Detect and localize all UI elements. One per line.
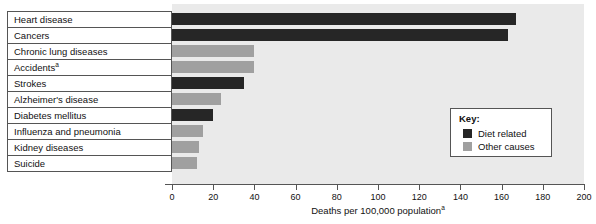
x-axis-tick-label: 160 bbox=[494, 192, 509, 202]
bar bbox=[172, 109, 213, 121]
category-label-row: Suicide bbox=[8, 156, 171, 172]
bar-row bbox=[172, 155, 584, 171]
category-label-row: Accidentsa bbox=[8, 60, 171, 76]
legend-entry: Other causes bbox=[463, 140, 551, 153]
category-label-text: Heart disease bbox=[14, 14, 73, 25]
category-label-row: Influenza and pneumonia bbox=[8, 124, 171, 140]
category-label-row: Kidney diseases bbox=[8, 140, 171, 156]
category-label-row: Cancers bbox=[8, 28, 171, 44]
category-label-text: Chronic lung diseases bbox=[14, 46, 107, 57]
legend-color-swatch bbox=[463, 129, 472, 138]
legend-entries: Diet relatedOther causes bbox=[459, 127, 551, 153]
x-axis-tick-label: 140 bbox=[453, 192, 468, 202]
category-label-text: Cancers bbox=[14, 30, 49, 41]
bar bbox=[172, 45, 254, 57]
x-axis-title-text: Deaths per 100,000 population bbox=[311, 205, 441, 216]
x-axis-tick-mark bbox=[378, 184, 379, 190]
x-axis-tick-mark bbox=[543, 184, 544, 190]
x-axis-tick-label: 200 bbox=[576, 192, 591, 202]
bar-row bbox=[172, 43, 584, 59]
x-axis-tick-mark bbox=[254, 184, 255, 190]
x-axis-tick-mark bbox=[213, 184, 214, 190]
category-label-text: Kidney diseases bbox=[14, 142, 83, 153]
bar bbox=[172, 13, 516, 25]
x-axis-tick-label: 60 bbox=[291, 192, 301, 202]
x-axis-tick-label: 120 bbox=[412, 192, 427, 202]
bar bbox=[172, 93, 221, 105]
category-label-text: Strokes bbox=[14, 78, 46, 89]
x-axis-tick-label: 100 bbox=[370, 192, 385, 202]
x-axis-title-footnote-marker: a bbox=[441, 204, 445, 211]
category-label-row: Strokes bbox=[8, 76, 171, 92]
legend-color-swatch bbox=[463, 142, 472, 151]
bar-row bbox=[172, 91, 584, 107]
bar bbox=[172, 125, 203, 137]
x-axis-tick-label: 80 bbox=[332, 192, 342, 202]
bar-row bbox=[172, 59, 584, 75]
bar bbox=[172, 157, 197, 169]
x-axis-tick-label: 180 bbox=[535, 192, 550, 202]
x-axis-tick-label: 40 bbox=[249, 192, 259, 202]
x-axis-tick-mark bbox=[419, 184, 420, 190]
category-label-row: Alzheimer's disease bbox=[8, 92, 171, 108]
x-axis-tick-mark bbox=[296, 184, 297, 190]
category-label-text: Diabetes mellitus bbox=[14, 110, 86, 121]
x-axis-tick-mark bbox=[584, 184, 585, 190]
category-label-text: Influenza and pneumonia bbox=[14, 126, 121, 137]
category-label-footnote-marker: a bbox=[55, 61, 59, 68]
bar bbox=[172, 29, 508, 41]
x-axis-ticks: 020406080100120140160180200 bbox=[172, 184, 584, 204]
legend-entry: Diet related bbox=[463, 127, 551, 140]
bar bbox=[172, 61, 254, 73]
x-axis-tick-label: 0 bbox=[169, 192, 174, 202]
category-label-text: Alzheimer's disease bbox=[14, 94, 98, 105]
x-axis-tick-mark bbox=[460, 184, 461, 190]
x-axis-title: Deaths per 100,000 populationa bbox=[172, 205, 584, 216]
bar bbox=[172, 77, 244, 89]
x-axis-tick-mark bbox=[172, 184, 173, 190]
x-axis-tick-mark bbox=[502, 184, 503, 190]
bar-row bbox=[172, 11, 584, 27]
category-label-row: Heart disease bbox=[8, 12, 171, 28]
legend-box: Key: Diet relatedOther causes bbox=[450, 108, 552, 157]
legend-entry-label: Diet related bbox=[478, 128, 527, 139]
category-label-text: Accidents bbox=[14, 62, 55, 73]
category-label-text: Suicide bbox=[14, 158, 45, 169]
legend-title: Key: bbox=[459, 113, 551, 124]
category-label-row: Diabetes mellitus bbox=[8, 108, 171, 124]
legend-entry-label: Other causes bbox=[478, 141, 535, 152]
x-axis-tick-label: 20 bbox=[208, 192, 218, 202]
category-label-row: Chronic lung diseases bbox=[8, 44, 171, 60]
x-axis-tick-mark bbox=[337, 184, 338, 190]
bar-row bbox=[172, 27, 584, 43]
bar-row bbox=[172, 75, 584, 91]
category-label-table: Heart diseaseCancersChronic lung disease… bbox=[7, 11, 172, 172]
bar bbox=[172, 141, 199, 153]
